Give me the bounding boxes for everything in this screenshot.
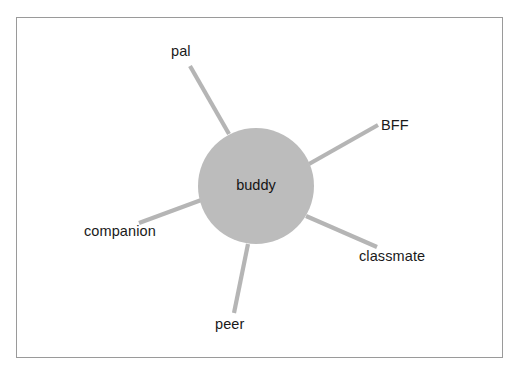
word-web-diagram: buddy pal BFF classmate peer companion xyxy=(0,0,522,376)
node-label-companion: companion xyxy=(84,224,156,239)
node-label-peer: peer xyxy=(215,317,244,332)
node-label-pal: pal xyxy=(171,44,191,59)
node-label-classmate: classmate xyxy=(359,249,425,264)
hub-label-buddy: buddy xyxy=(198,178,314,193)
node-label-bff: BFF xyxy=(381,118,409,133)
